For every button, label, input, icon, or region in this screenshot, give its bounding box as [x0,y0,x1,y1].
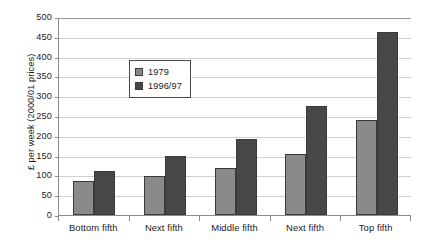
x-axis-tick-label: Middle fifth [211,222,258,233]
y-axis-tick-labels: 050100150200250300350400450500 [16,18,52,216]
x-axis-tick-label: Top fifth [359,222,393,233]
x-axis-tick-mark [129,216,130,221]
bar [236,139,257,215]
x-axis-tick-label: Next fifth [286,222,324,233]
legend-swatch-icon [135,68,143,76]
y-axis-tick-label: 350 [16,73,52,82]
bar [73,181,94,215]
x-axis-tick-mark [58,216,59,221]
bar-group [285,18,327,215]
bar [165,156,186,215]
x-axis-tick-labels: Bottom fifthNext fifthMiddle fifthNext f… [58,222,411,240]
y-axis-tick-label: 300 [16,93,52,102]
y-axis-tick-label: 450 [16,33,52,42]
legend: 19791996/97 [129,60,191,98]
x-axis-tick-label: Next fifth [145,222,183,233]
legend-label: 1996/97 [148,81,182,91]
legend-swatch-icon [135,82,143,90]
y-axis-tick-label: 400 [16,53,52,62]
y-axis-tick-label: 500 [16,13,52,22]
x-axis-tick-mark [199,216,200,221]
bar [356,120,377,215]
bar [377,32,398,215]
y-axis-tick-label: 100 [16,172,52,181]
x-axis-tick-label: Bottom fifth [69,222,118,233]
y-axis-tick-label: 50 [16,192,52,201]
plot-area: 19791996/97 [58,18,411,216]
bar [94,171,115,215]
bar [306,106,327,215]
legend-item: 1996/97 [135,79,182,93]
bars-layer [59,18,411,215]
legend-item: 1979 [135,65,182,79]
y-axis-tick-label: 250 [16,112,52,121]
bar-group [215,18,257,215]
bar [285,154,306,215]
legend-label: 1979 [148,67,169,77]
y-axis-tick-label: 150 [16,152,52,161]
y-axis-tick-label: 0 [16,211,52,220]
x-axis-tick-mark [270,216,271,221]
bar-group [73,18,115,215]
y-axis-tick-label: 200 [16,132,52,141]
x-axis-tick-mark [340,216,341,221]
x-axis-tick-mark [410,216,411,221]
bar-group [144,18,186,215]
bar [215,168,236,215]
bar [144,176,165,215]
bar-chart: £ per week (2000/01 prices) 050100150200… [0,0,424,248]
bar-group [356,18,398,215]
